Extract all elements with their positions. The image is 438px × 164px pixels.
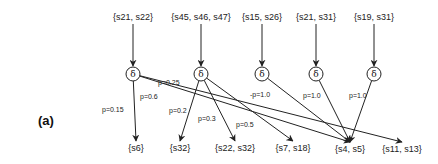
outcome-state-label: {s4, s5} xyxy=(335,144,365,154)
transition-edge xyxy=(204,80,235,141)
delta-symbol: δ xyxy=(259,69,264,79)
probability-label: p=0.25 xyxy=(158,79,180,87)
probability-label: p=0.5 xyxy=(236,121,254,129)
probability-label: p=0.3 xyxy=(198,115,216,123)
outcome-state-label: {s6} xyxy=(128,143,144,153)
probability-label: p=0.6 xyxy=(140,93,158,101)
delta-symbol: δ xyxy=(313,69,318,79)
top-state-label: {s15, s26} xyxy=(242,12,282,22)
probability-label: p=0.2 xyxy=(169,107,187,115)
probability-label: p=0.15 xyxy=(102,106,124,114)
outcome-state-label: {s32} xyxy=(170,143,191,153)
outcome-state-label: {s11, s13} xyxy=(382,144,421,154)
probability-label: p=1.0 xyxy=(303,92,321,100)
delta-symbol: δ xyxy=(130,69,135,79)
transition-edge xyxy=(133,81,136,141)
delta-node: δ xyxy=(194,67,208,81)
outcome-state-label: {s22, s32} xyxy=(215,143,255,153)
delta-node: δ xyxy=(367,67,381,81)
top-state-label: {s21, s22} xyxy=(113,12,153,22)
state-transition-diagram: (a) δδδδδ {s21, s22}{s45, s46, s47}{s15,… xyxy=(0,0,438,164)
probability-label: -p=1.0 xyxy=(250,91,270,99)
delta-node: δ xyxy=(309,67,323,81)
top-state-label: {s21, s31} xyxy=(296,12,336,22)
top-state-label: {s45, s46, s47} xyxy=(171,12,231,22)
top-state-label: {s19, s31} xyxy=(354,12,394,22)
outcome-state-label: {s7, s18} xyxy=(275,143,310,153)
transition-edge xyxy=(319,80,350,142)
delta-symbol: δ xyxy=(198,69,203,79)
probability-label: p=1.0 xyxy=(349,92,367,100)
delta-node: δ xyxy=(126,67,140,81)
delta-node: δ xyxy=(255,67,269,81)
transition-edge xyxy=(268,78,350,142)
transition-edge xyxy=(350,81,372,142)
panel-label: (a) xyxy=(38,113,54,128)
delta-symbol: δ xyxy=(371,69,376,79)
